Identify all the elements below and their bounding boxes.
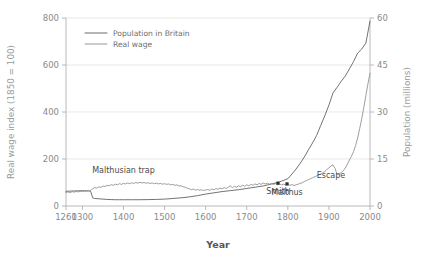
y-right-tick-label: 45	[377, 60, 388, 70]
y-left-tick-label: 800	[43, 13, 59, 23]
annotation-malthusian-trap: Malthusian trap	[92, 166, 155, 175]
marker-malthus	[285, 182, 288, 185]
y-axis-right-title: Population (millions)	[402, 67, 412, 157]
y-right-tick-label: 30	[377, 107, 388, 117]
x-tick-label: 1700	[236, 212, 258, 222]
x-axis-title: Year	[205, 239, 230, 250]
legend-label-1: Real wage	[113, 40, 152, 49]
x-tick-label: 2000	[359, 212, 381, 222]
y-right-tick-label: 60	[377, 13, 388, 23]
x-tick-label: 1300	[72, 212, 94, 222]
x-tick-label: 1400	[113, 212, 135, 222]
x-tick-label: 1500	[154, 212, 176, 222]
x-tick-label: 1600	[195, 212, 217, 222]
x-tick-label: 1900	[318, 212, 340, 222]
x-tick-label: 1800	[277, 212, 299, 222]
marker-smith	[276, 182, 279, 185]
y-left-tick-label: 0	[54, 201, 59, 211]
annotation-escape: Escape	[317, 171, 346, 180]
marker-label-malthus: Malthus	[271, 188, 302, 197]
y-left-tick-label: 400	[43, 107, 59, 117]
y-axis-left-title: Real wage index (1850 = 100)	[6, 45, 16, 179]
population-real-wage-line-chart: 126013001400150016001700180019002000 020…	[0, 0, 424, 259]
y-right-tick-label: 0	[377, 201, 382, 211]
chart-figure: 126013001400150016001700180019002000 020…	[0, 0, 424, 259]
y-right-tick-label: 15	[377, 154, 388, 164]
legend-label-0: Population in Britain	[113, 29, 190, 38]
y-left-tick-label: 600	[43, 60, 59, 70]
y-left-tick-label: 200	[43, 154, 59, 164]
